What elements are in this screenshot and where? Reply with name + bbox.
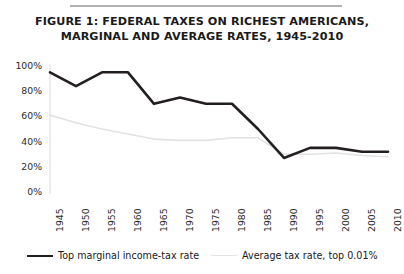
y-axis-tick-label: 40%: [2, 137, 42, 147]
legend-label: Average tax rate, top 0.01%: [242, 250, 378, 261]
series-line-1: [50, 72, 388, 158]
x-axis-tick-label: 2005: [366, 208, 377, 232]
legend-line-swatch-icon: [211, 255, 237, 256]
line-chart-svg: [0, 0, 404, 274]
x-axis-tick-label: 1995: [314, 208, 325, 232]
x-axis-tick-label: 1960: [132, 208, 143, 232]
series-group: [50, 72, 388, 158]
y-axis-tick-label: 0%: [2, 187, 42, 197]
plot-area: 0%20%40%60%80%100% 194519501955196019651…: [0, 0, 404, 274]
x-axis-tick-label: 2010: [392, 208, 403, 232]
x-axis-tick-label: 1955: [106, 208, 117, 232]
x-axis-tick-label: 1980: [236, 208, 247, 232]
x-axis-tick-label: 1985: [262, 208, 273, 232]
legend-item-top-marginal-income-tax-rate: Top marginal income-tax rate: [27, 250, 199, 261]
x-axis-tick-label: 2000: [340, 208, 351, 232]
figure-container: FIGURE 1: FEDERAL TAXES ON RICHEST AMERI…: [0, 0, 404, 274]
y-axis-tick-label: 100%: [2, 61, 42, 71]
y-axis-tick-label: 80%: [2, 86, 42, 96]
x-axis-tick-label: 1950: [80, 208, 91, 232]
y-axis-tick-label: 60%: [2, 111, 42, 121]
y-axis-tick-label: 20%: [2, 162, 42, 172]
x-axis-tick-label: 1970: [184, 208, 195, 232]
x-axis-tick-label: 1975: [210, 208, 221, 232]
legend-line-swatch-icon: [27, 255, 53, 257]
legend-label: Top marginal income-tax rate: [58, 250, 199, 261]
x-axis-tick-label: 1945: [54, 208, 65, 232]
series-line-2: [50, 115, 388, 157]
legend-item-average-tax-rate-top-001: Average tax rate, top 0.01%: [211, 250, 378, 261]
x-axis-tick-label: 1965: [158, 208, 169, 232]
x-axis-tick-label: 1990: [288, 208, 299, 232]
chart-legend: Top marginal income-tax rate Average tax…: [0, 248, 404, 270]
